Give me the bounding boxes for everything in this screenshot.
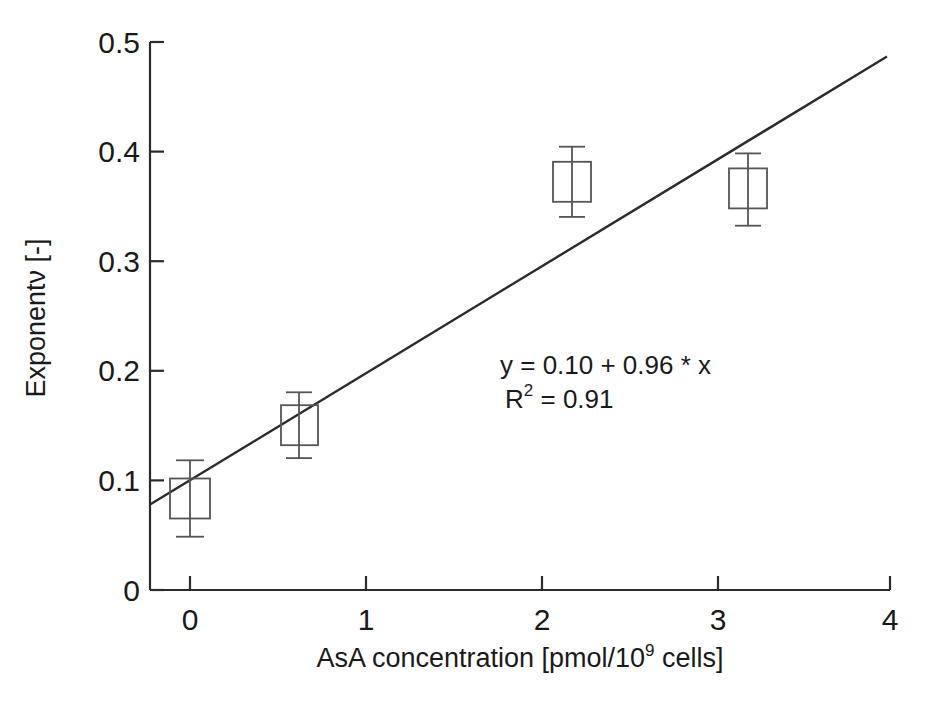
scatter-plot: 0 0.1 0.2 0.3 0.4 0.5 0 1 2 3 4 (0, 0, 927, 704)
data-point-3[interactable] (553, 147, 591, 217)
r-squared-value: = 0.91 (533, 384, 613, 414)
y-tick-label-0.3: 0.3 (98, 245, 140, 278)
y-tick-label-0.2: 0.2 (98, 354, 140, 387)
x-axis-title-pre: AsA concentration [pmol/10 (316, 643, 645, 673)
data-point-2[interactable] (281, 392, 318, 458)
x-tick-label-0: 0 (182, 603, 199, 636)
y-tick-label-0: 0 (123, 574, 140, 607)
x-axis-title: AsA concentration [pmol/109 cells] (316, 641, 723, 673)
y-axis-title: Exponentν [-] (21, 238, 51, 397)
r-squared-label: R2 = 0.91 (505, 381, 613, 414)
fit-annotation: y = 0.10 + 0.96 * x R2 = 0.91 (500, 350, 711, 414)
fit-equation-label: y = 0.10 + 0.96 * x (500, 350, 711, 380)
r-squared-exponent: 2 (524, 381, 533, 400)
x-tick-label-4: 4 (882, 603, 899, 636)
y-axis-title-symbol: ν (21, 270, 51, 284)
y-tick-label-0.4: 0.4 (98, 135, 140, 168)
x-axis-tick-labels: 0 1 2 3 4 (182, 603, 899, 636)
y-tick-label-0.5: 0.5 (98, 26, 140, 59)
y-axis-title-post: [-] (21, 238, 51, 270)
x-tick-label-2: 2 (534, 603, 551, 636)
x-tick-label-3: 3 (710, 603, 727, 636)
regression-line (150, 57, 887, 505)
data-point-4[interactable] (729, 153, 767, 225)
x-axis-title-post: cells] (655, 643, 724, 673)
y-axis-tick-labels: 0 0.1 0.2 0.3 0.4 0.5 (98, 26, 140, 607)
y-axis-title-pre: Exponent (21, 283, 51, 398)
x-axis-ticks (190, 576, 890, 590)
x-tick-label-1: 1 (358, 603, 375, 636)
figure-container: 0 0.1 0.2 0.3 0.4 0.5 0 1 2 3 4 (0, 0, 927, 704)
r-squared-base: R (505, 384, 524, 414)
x-axis-title-superscript: 9 (645, 641, 654, 660)
y-tick-label-0.1: 0.1 (98, 464, 140, 497)
axes-frame (150, 42, 890, 590)
y-axis-ticks (150, 42, 164, 590)
